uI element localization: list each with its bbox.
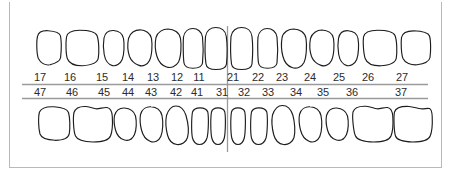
tooth-label-34[interactable]: 34: [285, 87, 307, 98]
tooth-label-27[interactable]: 27: [391, 72, 413, 83]
tooth-label-23[interactable]: 23: [271, 72, 293, 83]
tooth-label-47[interactable]: 47: [29, 87, 51, 98]
tooth-label-44[interactable]: 44: [117, 87, 139, 98]
tooth-label-35[interactable]: 35: [312, 87, 334, 98]
tooth-44[interactable]: [140, 107, 163, 142]
tooth-label-11[interactable]: 11: [188, 72, 210, 83]
tooth-33[interactable]: [272, 106, 295, 145]
tooth-31[interactable]: [231, 108, 246, 145]
tooth-label-12[interactable]: 12: [166, 72, 188, 83]
tooth-34[interactable]: [299, 107, 322, 142]
tooth-35[interactable]: [326, 108, 348, 140]
tooth-label-25[interactable]: 25: [328, 72, 350, 83]
tooth-label-43[interactable]: 43: [140, 87, 162, 98]
tooth-37[interactable]: [394, 106, 432, 142]
tooth-label-21[interactable]: 21: [222, 72, 244, 83]
tooth-label-36[interactable]: 36: [341, 87, 363, 98]
tooth-36[interactable]: [353, 106, 393, 142]
tooth-label-15[interactable]: 15: [91, 72, 113, 83]
tooth-43[interactable]: [166, 106, 188, 145]
tooth-32[interactable]: [251, 108, 268, 145]
tooth-label-24[interactable]: 24: [299, 72, 321, 83]
tooth-label-17[interactable]: 17: [29, 72, 51, 83]
tooth-label-42[interactable]: 42: [165, 87, 187, 98]
tooth-45[interactable]: [114, 108, 136, 140]
tooth-label-13[interactable]: 13: [142, 72, 164, 83]
tooth-label-41[interactable]: 41: [186, 87, 208, 98]
tooth-label-14[interactable]: 14: [117, 72, 139, 83]
tooth-label-22[interactable]: 22: [247, 72, 269, 83]
tooth-label-45[interactable]: 45: [93, 87, 115, 98]
tooth-label-31[interactable]: 31: [211, 87, 233, 98]
tooth-label-33[interactable]: 33: [257, 87, 279, 98]
tooth-47[interactable]: [39, 107, 70, 141]
tooth-label-46[interactable]: 46: [61, 87, 83, 98]
tooth-42[interactable]: [192, 108, 209, 145]
tooth-label-16[interactable]: 16: [59, 72, 81, 83]
tooth-41[interactable]: [211, 108, 226, 145]
tooth-label-26[interactable]: 26: [357, 72, 379, 83]
tooth-label-37[interactable]: 37: [390, 87, 412, 98]
dental-chart: 17 16 15 14 13 12 11 21 22 23 24 25 26 2…: [0, 0, 452, 171]
tooth-label-32[interactable]: 32: [233, 87, 255, 98]
tooth-46[interactable]: [73, 106, 112, 142]
